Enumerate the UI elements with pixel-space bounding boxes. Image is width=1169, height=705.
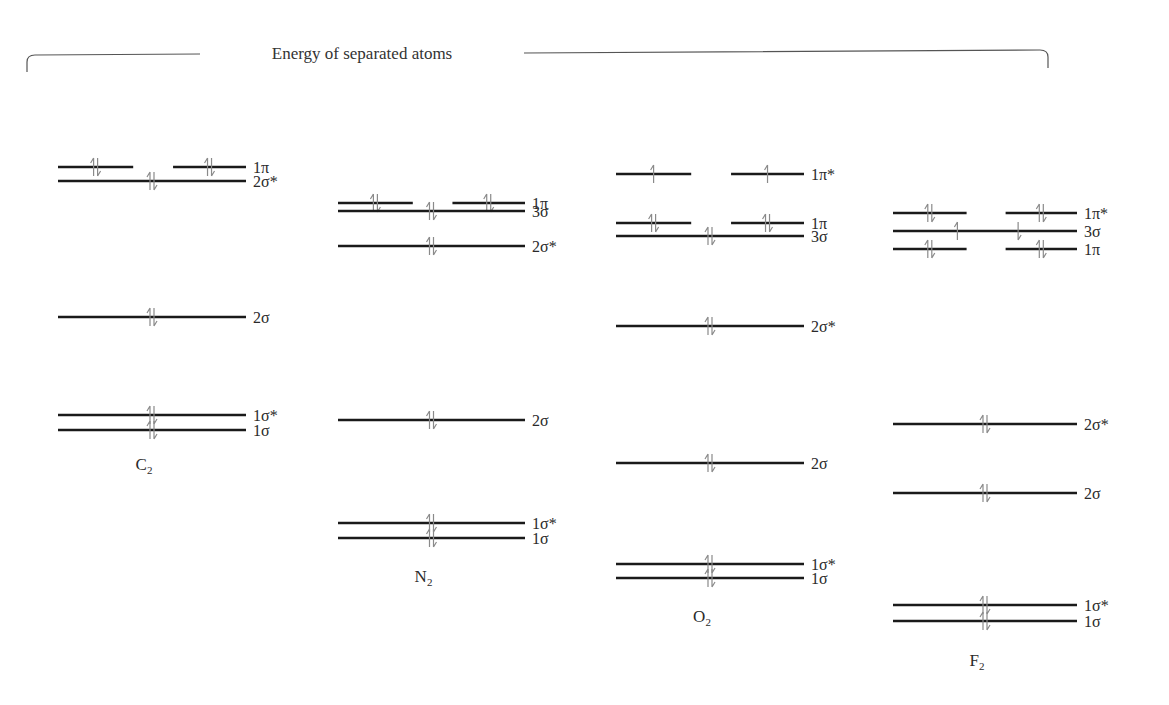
orbital-level: 1π	[338, 194, 548, 212]
orbital-label: 1π	[1084, 241, 1100, 258]
orbital-level: 1σ	[58, 421, 270, 439]
orbital-level: 3σ	[338, 202, 549, 220]
orbital-label: 1σ	[1084, 613, 1101, 630]
orbital-level: 1π	[58, 158, 269, 176]
mo-diagram: Energy of separated atoms 1π2σ*2σ1σ*1σC2…	[0, 0, 1169, 705]
separated-atoms-bracket: Energy of separated atoms	[27, 44, 1048, 72]
orbital-level: 2σ*	[893, 415, 1109, 433]
orbital-level: 1σ*	[338, 514, 557, 532]
molecule-f2: 1π*3σ1π2σ*2σ1σ*1σF2	[893, 204, 1109, 672]
orbital-level: 2σ*	[58, 172, 278, 190]
orbital-label: 3σ	[1084, 223, 1101, 240]
orbital-label: 2σ*	[253, 173, 278, 190]
orbital-level: 1σ*	[616, 555, 836, 573]
molecule-o2: 1π*1π3σ2σ*2σ1σ*1σO2	[616, 165, 836, 628]
orbital-level: 1σ*	[58, 406, 278, 424]
molecule-label: F2	[970, 651, 985, 672]
orbital-label: 2σ*	[532, 238, 557, 255]
orbital-level: 2σ	[338, 411, 549, 429]
orbital-level: 2σ	[893, 484, 1101, 502]
orbital-label: 3σ	[811, 228, 828, 245]
orbital-level: 3σ	[893, 222, 1101, 240]
energy-level-diagram-svg: Energy of separated atoms 1π2σ*2σ1σ*1σC2…	[0, 0, 1169, 705]
orbital-label: 2σ	[532, 412, 549, 429]
orbital-level: 1π*	[616, 165, 835, 183]
orbital-label: 1σ	[811, 570, 828, 587]
molecule-label: C2	[136, 455, 153, 476]
orbital-level: 2σ	[58, 308, 270, 326]
molecule-n2: 1π3σ2σ*2σ1σ*1σN2	[338, 194, 557, 588]
orbital-level: 1π	[616, 214, 827, 232]
orbital-label: 1σ*	[1084, 597, 1109, 614]
orbital-level: 1σ	[893, 612, 1101, 630]
bracket-title: Energy of separated atoms	[272, 44, 452, 63]
orbital-level: 1σ	[338, 529, 549, 547]
molecule-c2: 1π2σ*2σ1σ*1σC2	[58, 158, 278, 476]
orbital-level: 2σ	[616, 454, 828, 472]
orbital-level: 1π*	[893, 204, 1108, 222]
orbital-level: 2σ*	[338, 237, 557, 255]
orbital-label: 3σ	[532, 203, 549, 220]
orbital-level: 1σ*	[893, 596, 1109, 614]
orbital-level: 1π	[893, 240, 1100, 258]
orbital-label: 2σ*	[1084, 416, 1109, 433]
orbital-label: 2σ*	[811, 318, 836, 335]
molecule-label: N2	[415, 567, 433, 588]
orbital-label: 2σ	[1084, 485, 1101, 502]
orbital-label: 1σ	[532, 530, 549, 547]
orbital-level: 3σ	[616, 227, 828, 245]
orbital-level: 1σ	[616, 569, 828, 587]
orbital-label: 1π*	[811, 166, 835, 183]
molecule-label: O2	[693, 607, 711, 628]
molecules-group: 1π2σ*2σ1σ*1σC21π3σ2σ*2σ1σ*1σN21π*1π3σ2σ*…	[58, 158, 1109, 672]
orbital-label: 1σ	[253, 422, 270, 439]
orbital-level: 2σ*	[616, 317, 836, 335]
orbital-label: 2σ	[253, 309, 270, 326]
orbital-label: 1π*	[1084, 205, 1108, 222]
orbital-label: 2σ	[811, 455, 828, 472]
